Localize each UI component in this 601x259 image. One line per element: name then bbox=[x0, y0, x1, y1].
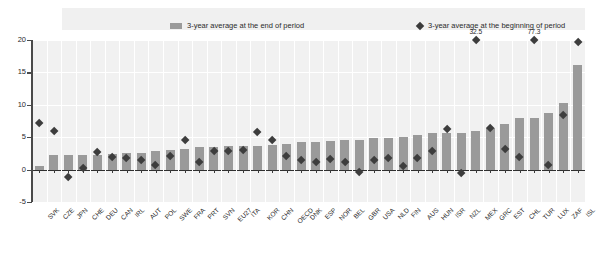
x-axis-label-CHN: CHN bbox=[280, 207, 295, 222]
bar-ISR[interactable] bbox=[442, 133, 451, 169]
x-axis-tick bbox=[272, 170, 273, 173]
x-axis-tick bbox=[39, 170, 40, 173]
y-axis-tick bbox=[27, 202, 32, 203]
x-axis-label-TUR: TUR bbox=[542, 207, 556, 221]
gridline-vertical bbox=[61, 40, 62, 202]
gridline-horizontal bbox=[32, 202, 585, 203]
x-axis-tick bbox=[374, 170, 375, 173]
x-axis-label-EST: EST bbox=[513, 207, 527, 221]
bar-CZE[interactable] bbox=[49, 155, 58, 170]
x-axis-tick bbox=[258, 170, 259, 173]
gridline-vertical bbox=[570, 40, 571, 202]
bar-JPN[interactable] bbox=[64, 155, 73, 169]
x-axis-tick bbox=[520, 170, 521, 173]
gridline-vertical bbox=[207, 40, 208, 202]
gridline-vertical bbox=[265, 40, 266, 202]
x-axis-tick bbox=[112, 170, 113, 173]
bar-ISL[interactable] bbox=[573, 65, 582, 169]
bar-DEU[interactable] bbox=[93, 155, 102, 169]
x-axis-label-JPN: JPN bbox=[76, 207, 89, 220]
bar-CHN[interactable] bbox=[268, 145, 277, 170]
x-axis-label-ISL: ISL bbox=[585, 207, 597, 219]
value-annotation-TUR: 77.3 bbox=[521, 29, 547, 36]
bar-NZL[interactable] bbox=[457, 133, 466, 169]
chart-legend: 3-year average at the end of period 3-ye… bbox=[62, 8, 585, 30]
gridline-vertical bbox=[527, 40, 528, 202]
bar-GRC[interactable] bbox=[486, 128, 495, 169]
gridline-vertical bbox=[309, 40, 310, 202]
y-axis-tick bbox=[27, 170, 32, 171]
chart-container: 3-year average at the end of period 3-ye… bbox=[0, 0, 601, 259]
x-axis-tick bbox=[389, 170, 390, 173]
x-axis-label-CHL: CHL bbox=[527, 207, 541, 221]
gridline-vertical bbox=[236, 40, 237, 202]
x-axis-label-USA: USA bbox=[382, 207, 396, 221]
x-axis-tick bbox=[432, 170, 433, 173]
gridline-vertical bbox=[178, 40, 179, 202]
x-axis-label-ISR: ISR bbox=[454, 207, 466, 219]
gridline-vertical bbox=[352, 40, 353, 202]
x-axis-tick bbox=[243, 170, 244, 173]
x-axis-tick bbox=[301, 170, 302, 173]
gridline-vertical bbox=[410, 40, 411, 202]
x-axis-tick bbox=[170, 170, 171, 173]
gridline-vertical bbox=[192, 40, 193, 202]
gridline-vertical bbox=[541, 40, 542, 202]
x-axis-tick bbox=[185, 170, 186, 173]
x-axis-tick bbox=[156, 170, 157, 173]
y-axis-tick-label: 20 bbox=[4, 36, 26, 44]
gridline-vertical bbox=[119, 40, 120, 202]
x-axis-tick bbox=[287, 170, 288, 173]
gridline-vertical bbox=[47, 40, 48, 202]
bar-TUR[interactable] bbox=[530, 118, 539, 170]
bar-CHL[interactable] bbox=[515, 118, 524, 170]
x-axis-label-ZAF: ZAF bbox=[571, 207, 584, 220]
gridline-vertical bbox=[323, 40, 324, 202]
x-axis-tick bbox=[578, 170, 579, 173]
x-axis-label-CZE: CZE bbox=[62, 207, 76, 221]
x-axis-label-NLD: NLD bbox=[396, 207, 410, 221]
x-axis-tick bbox=[199, 170, 200, 173]
gridline-vertical bbox=[396, 40, 397, 202]
bar-KOR[interactable] bbox=[253, 146, 262, 170]
gridline-vertical bbox=[498, 40, 499, 202]
x-axis-tick bbox=[345, 170, 346, 173]
y-axis-tick bbox=[27, 40, 32, 41]
gridline-vertical bbox=[221, 40, 222, 202]
y-axis-line bbox=[31, 40, 32, 202]
x-axis-tick bbox=[127, 170, 128, 173]
x-axis-tick bbox=[141, 170, 142, 173]
bar-SVK[interactable] bbox=[35, 166, 44, 170]
x-axis-label-DEU: DEU bbox=[106, 207, 121, 222]
x-axis-label-CAN: CAN bbox=[120, 207, 135, 222]
bar-FRA[interactable] bbox=[180, 149, 189, 170]
gridline-vertical bbox=[483, 40, 484, 202]
x-axis-tick bbox=[330, 170, 331, 173]
x-axis-tick bbox=[228, 170, 229, 173]
y-axis-tick bbox=[27, 72, 32, 73]
x-axis-label-ESP: ESP bbox=[324, 207, 338, 221]
bar-GBR[interactable] bbox=[355, 140, 364, 169]
bar-MEX[interactable] bbox=[471, 131, 480, 169]
gridline-vertical bbox=[250, 40, 251, 202]
x-axis-tick bbox=[447, 170, 448, 173]
x-axis-tick bbox=[316, 170, 317, 173]
x-axis-label-BEL: BEL bbox=[353, 207, 366, 220]
x-axis-label-SVK: SVK bbox=[47, 207, 61, 221]
value-annotation-MEX: 32.5 bbox=[463, 29, 489, 36]
x-axis-label-MEX: MEX bbox=[484, 207, 499, 222]
x-axis-tick bbox=[54, 170, 55, 173]
x-axis-tick bbox=[214, 170, 215, 173]
x-axis-tick bbox=[549, 170, 550, 173]
gridline-vertical bbox=[338, 40, 339, 202]
x-axis-tick bbox=[505, 170, 506, 173]
gridline-vertical bbox=[163, 40, 164, 202]
gridline-vertical bbox=[439, 40, 440, 202]
gridline-vertical bbox=[556, 40, 557, 202]
y-axis-tick-label: 5 bbox=[4, 133, 26, 141]
x-axis-tick bbox=[490, 170, 491, 173]
x-axis-tick bbox=[534, 170, 535, 173]
gridline-vertical bbox=[105, 40, 106, 202]
bar-AUS[interactable] bbox=[413, 135, 422, 170]
y-axis-tick-label: -5 bbox=[4, 198, 26, 206]
